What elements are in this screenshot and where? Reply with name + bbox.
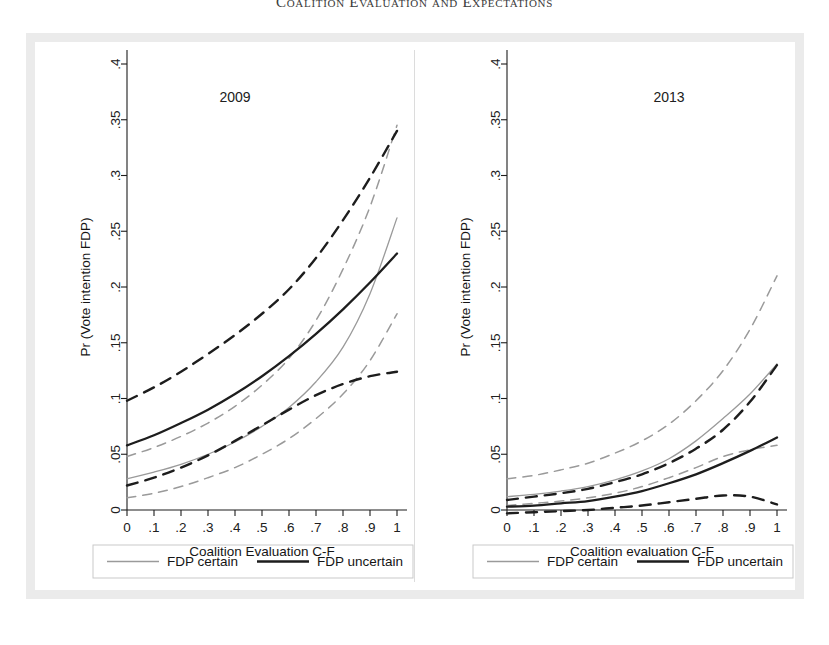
series-curve [127, 218, 397, 479]
x-tick-label: .2 [555, 520, 566, 535]
x-tick-label: .3 [202, 520, 213, 535]
y-axis-title: Pr (Vote intention FDP) [78, 218, 93, 357]
y-tick-label: .4 [108, 58, 123, 70]
x-tick-label: 1 [393, 520, 401, 535]
legend-label-certain: FDP certain [547, 554, 618, 569]
legend-label-uncertain: FDP uncertain [697, 554, 783, 569]
series-curve [127, 314, 397, 498]
series-curve [127, 254, 397, 446]
legend-label-uncertain: FDP uncertain [317, 554, 403, 569]
x-tick-label: .3 [582, 520, 593, 535]
series-curve [127, 125, 397, 456]
x-tick-label: .1 [528, 520, 539, 535]
x-tick-label: .9 [364, 520, 375, 535]
x-tick-label: .5 [256, 520, 267, 535]
y-tick-label: .05 [108, 445, 123, 464]
x-tick-label: .4 [609, 520, 621, 535]
y-tick-label: .25 [108, 222, 123, 241]
x-tick-label: 1 [773, 520, 781, 535]
x-tick-label: .6 [283, 520, 294, 535]
figure-frame: 0.05.1.15.2.25.3.35.4Pr (Vote intention … [26, 33, 804, 599]
y-tick-label: .3 [108, 170, 123, 181]
series-curve [507, 364, 777, 497]
x-tick-label: .8 [337, 520, 348, 535]
y-tick-label: .1 [108, 393, 123, 404]
x-tick-label: .8 [717, 520, 728, 535]
legend-label-certain: FDP certain [167, 554, 238, 569]
two-panel-line-chart: 0.05.1.15.2.25.3.35.4Pr (Vote intention … [35, 42, 795, 590]
x-tick-label: .7 [310, 520, 321, 535]
x-tick-label: .4 [229, 520, 241, 535]
series-curve [507, 365, 777, 500]
series-curve [127, 131, 397, 401]
y-tick-label: .4 [488, 58, 503, 70]
x-tick-label: 0 [123, 520, 131, 535]
series-curve [507, 276, 777, 479]
x-tick-label: .9 [744, 520, 755, 535]
y-tick-label: .2 [108, 281, 123, 292]
y-tick-label: .35 [488, 110, 503, 129]
x-tick-label: .1 [148, 520, 159, 535]
y-tick-label: 0 [108, 506, 123, 514]
y-tick-label: 0 [488, 506, 503, 514]
x-tick-label: .6 [663, 520, 674, 535]
figure-canvas: 0.05.1.15.2.25.3.35.4Pr (Vote intention … [35, 42, 795, 590]
y-axis-title: Pr (Vote intention FDP) [458, 218, 473, 357]
x-tick-label: .7 [690, 520, 701, 535]
y-tick-label: .35 [108, 110, 123, 129]
y-tick-label: .1 [488, 393, 503, 404]
y-tick-label: .25 [488, 222, 503, 241]
panel-title: 2009 [219, 89, 250, 105]
panel-title: 2013 [653, 89, 684, 105]
y-tick-label: .05 [488, 445, 503, 464]
x-tick-label: .5 [636, 520, 647, 535]
chart-panel-right: 0.05.1.15.2.25.3.35.4Pr (Vote intention … [458, 50, 794, 578]
x-tick-label: 0 [503, 520, 511, 535]
running-head: Coalition Evaluation and Expectations [0, 0, 829, 11]
chart-panel-left: 0.05.1.15.2.25.3.35.4Pr (Vote intention … [78, 50, 414, 578]
y-tick-label: .3 [488, 170, 503, 181]
y-tick-label: .15 [488, 333, 503, 352]
x-tick-label: .2 [175, 520, 186, 535]
y-tick-label: .15 [108, 333, 123, 352]
y-tick-label: .2 [488, 281, 503, 292]
